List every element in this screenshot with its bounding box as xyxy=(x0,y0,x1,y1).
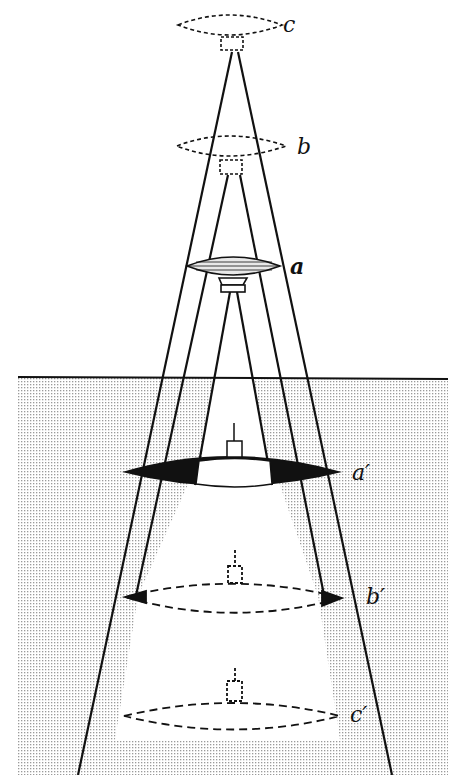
airship-b xyxy=(177,136,286,174)
label-b: b xyxy=(297,134,311,159)
water-region xyxy=(18,377,448,775)
label-c: c xyxy=(283,12,295,37)
airship-a xyxy=(187,257,280,292)
airship-c xyxy=(178,15,282,50)
label-a: a xyxy=(290,253,304,279)
diagram-canvas xyxy=(0,0,454,775)
label-b-prime: b′ xyxy=(366,584,385,609)
label-c-prime: c′ xyxy=(350,702,367,727)
label-a-prime: a′ xyxy=(352,460,370,485)
